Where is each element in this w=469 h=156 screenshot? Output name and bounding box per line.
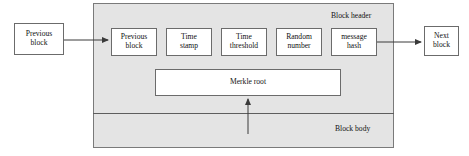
next-block-node: Next block [424,26,459,56]
header-field-time-stamp-line2: stamp [180,42,198,51]
header-field-random-number: Random number [276,28,322,56]
merkle-root-node: Merkle root [155,69,341,96]
block-body-label: Block body [335,124,370,133]
header-field-time-threshold: Time threshold [221,28,267,56]
header-field-previous-block: Previous block [111,28,157,56]
block-header-label: Block header [331,11,371,20]
header-body-divider [93,113,394,114]
previous-block-node: Previous block [14,23,64,55]
header-field-random-number-line2: number [287,42,310,51]
header-field-time-stamp: Time stamp [166,28,212,56]
header-field-message-hash: message hash [331,28,377,56]
previous-block-line2: block [31,39,48,48]
header-field-previous-block-line2: block [126,42,143,51]
next-block-line2: block [433,41,450,50]
header-field-message-hash-line2: hash [347,42,361,51]
header-field-time-threshold-line2: threshold [230,42,258,51]
block-structure-diagram: Block header Block body Previous block N… [0,0,469,156]
merkle-root-label: Merkle root [230,78,266,87]
